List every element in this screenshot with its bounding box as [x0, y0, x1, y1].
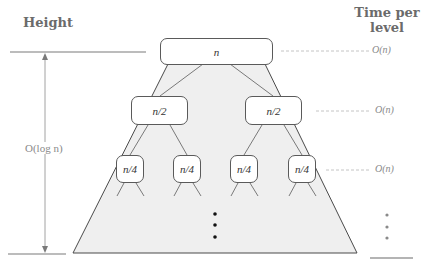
tree-node-level1: n/2	[131, 96, 188, 125]
tree-node-level2: n/4	[288, 155, 316, 183]
time-per-level-label: O(n)	[372, 44, 391, 55]
time-per-level-header-line1: Time per	[350, 5, 424, 20]
tree-node-level1: n/2	[245, 96, 302, 125]
tree-node-level2: n/4	[230, 155, 258, 183]
time-per-level-header-line2: level	[350, 20, 424, 35]
arrow-up-icon	[42, 53, 48, 60]
arrow-down-icon	[42, 246, 48, 253]
tree-node-level2: n/4	[173, 155, 201, 183]
tree-node-root: n	[160, 38, 273, 65]
height-header: Height	[22, 15, 74, 30]
time-continuation-dots	[385, 213, 388, 239]
time-per-level-header: Time per level	[350, 5, 424, 35]
time-per-level-label: O(n)	[375, 104, 394, 115]
tree-node-level2: n/4	[116, 155, 144, 183]
height-complexity-label: O(log n)	[24, 142, 64, 154]
recursion-tree-diagram: Height Time per level O(log n) n n/2 n/2…	[0, 0, 424, 280]
time-per-level-label: O(n)	[375, 163, 394, 174]
